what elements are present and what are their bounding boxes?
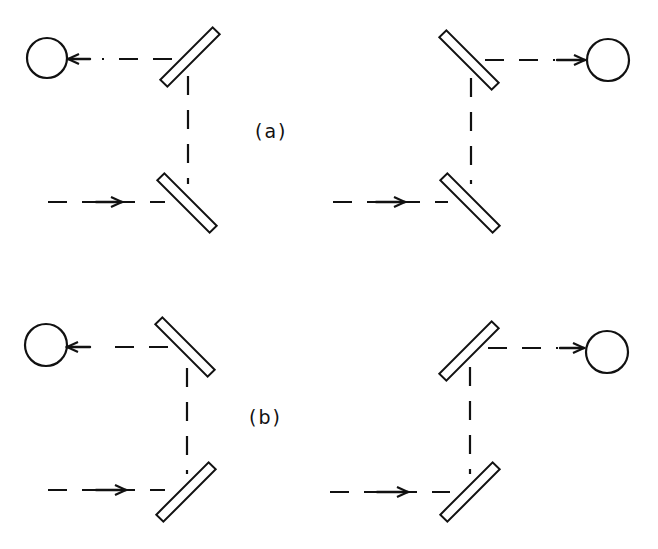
panel-a-left xyxy=(27,27,220,232)
detector-icon xyxy=(586,331,628,373)
mirror-diagram xyxy=(0,0,658,549)
detector-icon xyxy=(27,38,67,78)
detector-icon xyxy=(587,39,629,81)
mirror-top xyxy=(160,27,219,86)
panel-label-b: (b) xyxy=(249,406,282,428)
panel-b-right xyxy=(330,321,628,521)
panel-a-right xyxy=(333,30,629,232)
detector-icon xyxy=(25,324,67,366)
panel-b-left xyxy=(25,317,216,521)
panel-label-a: (a) xyxy=(255,120,287,142)
